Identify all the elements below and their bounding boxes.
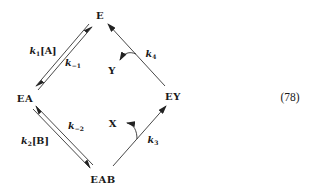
- arrow-y-release: [120, 53, 136, 60]
- rate-k-minus-1: k−1: [65, 57, 81, 69]
- node-ey: EY: [165, 91, 181, 102]
- rate-k3: k3: [148, 134, 159, 146]
- node-ea: EA: [17, 93, 33, 104]
- product-y: Y: [108, 65, 116, 76]
- arrow-ey-to-e: [108, 24, 165, 86]
- arrow-x-release: [127, 123, 137, 139]
- rate-k1-a: k1[A]: [29, 45, 56, 57]
- arrows-layer: [0, 0, 325, 191]
- rate-k2-b: k2[B]: [21, 135, 49, 147]
- kinetic-scheme-diagram: E EA EAB EY Y X k1[A] k−1 k2[B] k−2 k3 k…: [0, 0, 325, 191]
- equation-number: (78): [280, 91, 299, 103]
- product-x: X: [109, 118, 117, 129]
- rate-k-minus-2: k−2: [68, 120, 84, 132]
- node-e: E: [96, 10, 104, 21]
- node-eab: EAB: [90, 174, 115, 185]
- rate-k4: k4: [146, 48, 157, 60]
